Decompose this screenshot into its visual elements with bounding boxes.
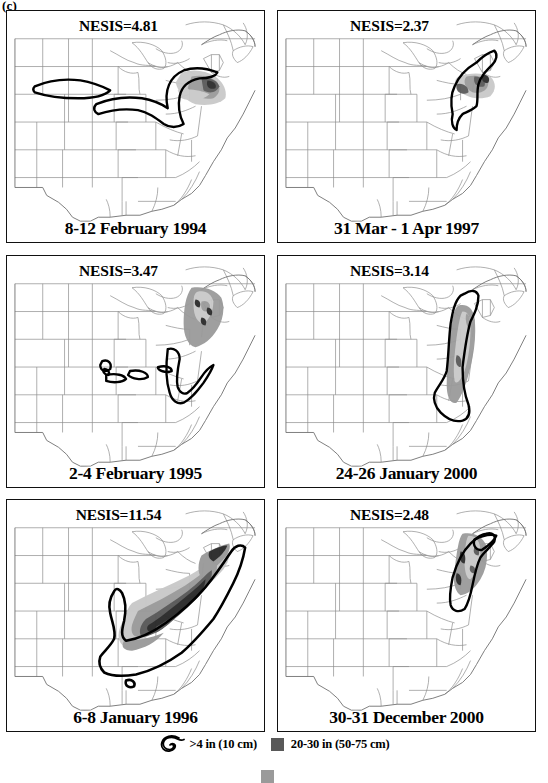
gray-square-icon [261, 770, 274, 783]
map-panel-1996-01[interactable]: NESIS=11.54 6-8 January 1996 [6, 499, 265, 732]
map-canvas [7, 11, 264, 242]
map-canvas [278, 11, 535, 242]
map-canvas [278, 256, 535, 487]
map-canvas [278, 500, 535, 731]
map-legend-row2 [0, 770, 548, 783]
legend-item-2030in: 20-30 in (50-75 cm) [271, 737, 390, 752]
us-east-map-svg [7, 256, 264, 487]
map-canvas [7, 256, 264, 487]
map-panel-2000-01[interactable]: NESIS=3.14 24-26 January 2000 [277, 255, 536, 488]
panel-date-label: 31 Mar - 1 Apr 1997 [278, 218, 535, 239]
legend-label-contour: >4 in (10 cm) [190, 737, 257, 752]
panel-date-label: 2-4 February 1995 [7, 463, 264, 484]
nesis-value-label: NESIS=2.48 [278, 506, 535, 524]
map-legend: >4 in (10 cm) 20-30 in (50-75 cm) [0, 735, 548, 753]
panel-date-label: 6-8 January 1996 [7, 707, 264, 728]
map-panel-1997-03[interactable]: NESIS=2.37 31 Mar - 1 Apr 1997 [277, 10, 536, 243]
map-canvas [7, 500, 264, 731]
nesis-value-label: NESIS=4.81 [7, 17, 264, 35]
nesis-value-label: NESIS=11.54 [7, 506, 264, 524]
panel-date-label: 30-31 December 2000 [278, 707, 535, 728]
dark-gray-square-icon [271, 738, 284, 751]
nesis-value-label: NESIS=3.47 [7, 262, 264, 280]
panel-grid: NESIS=4.81 8-12 February 1994 [6, 10, 536, 732]
nesis-value-label: NESIS=3.14 [278, 262, 535, 280]
us-east-map-svg [278, 256, 535, 487]
us-east-map-svg [278, 11, 535, 242]
contour-hook-icon [159, 735, 185, 753]
panel-date-label: 24-26 January 2000 [278, 463, 535, 484]
us-east-map-svg [7, 500, 264, 731]
map-panel-1995-02[interactable]: NESIS=3.47 2-4 February 1995 [6, 255, 265, 488]
us-east-map-svg [7, 11, 264, 242]
map-panel-1994-02[interactable]: NESIS=4.81 8-12 February 1994 [6, 10, 265, 243]
legend-label-2030in: 20-30 in (50-75 cm) [291, 737, 390, 752]
map-panel-2000-12[interactable]: NESIS=2.48 30-31 December 2000 [277, 499, 536, 732]
us-east-map-svg [278, 500, 535, 731]
panel-date-label: 8-12 February 1994 [7, 218, 264, 239]
nesis-value-label: NESIS=2.37 [278, 17, 535, 35]
legend-item-contour: >4 in (10 cm) [159, 735, 257, 753]
